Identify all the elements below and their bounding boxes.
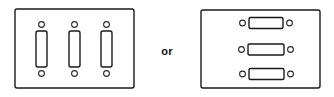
screw-hole-top (104, 22, 110, 28)
diagram-canvas: or (0, 0, 334, 97)
vertical-toggle-plate (15, 9, 134, 88)
screw-hole-right (288, 47, 294, 53)
screw-hole-top (72, 22, 78, 28)
conjunction-label: or (161, 45, 173, 57)
toggle-lever (101, 31, 112, 67)
screw-hole-bottom (39, 71, 45, 77)
switch-plate-diagram: or (0, 0, 334, 97)
screw-hole-top (39, 22, 45, 28)
screw-hole-left (240, 20, 246, 26)
screw-hole-bottom (104, 71, 110, 77)
screw-hole-right (287, 20, 293, 26)
toggle-lever (36, 31, 47, 67)
toggle-lever (249, 69, 284, 80)
screw-hole-right (288, 71, 294, 77)
screw-hole-left (240, 71, 246, 77)
screw-hole-bottom (72, 71, 78, 77)
toggle-lever (69, 31, 80, 67)
screw-hole-left (239, 47, 245, 53)
toggle-lever (249, 18, 283, 29)
toggle-lever (248, 44, 284, 55)
horizontal-toggle-plate (201, 10, 320, 88)
